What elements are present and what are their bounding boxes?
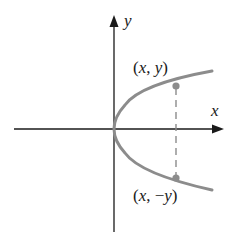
point-upper-x: x [138, 58, 147, 77]
point-lower [172, 174, 179, 181]
parabola-diagram: y x (x, y) (x, −y) [0, 0, 236, 240]
y-axis-arrowhead-icon [110, 15, 119, 27]
parabola-curve [114, 71, 212, 190]
y-axis-label: y [122, 11, 132, 30]
point-upper-y: y [153, 58, 163, 77]
point-upper [172, 82, 179, 89]
point-lower-y: y [162, 186, 172, 205]
point-lower-x: x [138, 186, 147, 205]
x-axis-arrowhead-icon [212, 125, 224, 134]
point-upper-label: (x, y) [133, 58, 168, 77]
x-axis [14, 125, 224, 134]
x-axis-label: x [210, 101, 219, 120]
point-lower-sign: − [155, 186, 165, 205]
point-lower-label: (x, −y) [133, 186, 178, 205]
